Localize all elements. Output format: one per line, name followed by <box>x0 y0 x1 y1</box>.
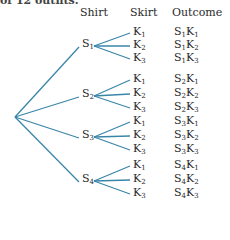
skirt-node-4-2: K2 <box>133 173 146 185</box>
skirt-node-4-3: K3 <box>133 187 146 199</box>
outcome-1-3: S1K3 <box>174 52 199 64</box>
branch-shirt-3-to-skirt-2 <box>94 136 130 137</box>
skirt-node-3-3: K3 <box>133 143 146 155</box>
skirt-node-4-1: K1 <box>133 159 146 171</box>
shirt-node-1: S1 <box>82 38 94 50</box>
skirt-node-2-1: K1 <box>133 73 146 85</box>
outcome-4-1: S4K1 <box>174 159 199 171</box>
outcome-4-3: S4K3 <box>174 187 199 199</box>
branch-shirt-3-to-skirt-3 <box>94 137 130 150</box>
outcome-3-3: S3K3 <box>174 143 199 155</box>
branch-shirt-3-to-skirt-1 <box>94 122 130 137</box>
outcome-2-2: S2K2 <box>174 87 199 99</box>
branch-shirt-4-to-skirt-3 <box>94 181 130 194</box>
skirt-node-1-2: K2 <box>133 39 146 51</box>
branch-shirt-1-to-skirt-3 <box>94 46 130 59</box>
branch-shirt-2-to-skirt-3 <box>94 96 130 108</box>
skirt-node-2-3: K3 <box>133 101 146 113</box>
shirt-node-4: S4 <box>82 173 94 185</box>
skirt-node-1-1: K1 <box>133 26 146 38</box>
outcome-3-1: S3K1 <box>174 115 199 127</box>
shirt-node-3: S3 <box>82 129 94 141</box>
outcome-1-1: S1K1 <box>174 26 199 38</box>
outcome-3-2: S3K2 <box>174 129 199 141</box>
shirt-node-2: S2 <box>82 88 94 100</box>
branch-shirt-4-to-skirt-1 <box>94 166 130 181</box>
branch-shirt-1-to-skirt-1 <box>94 33 130 46</box>
branch-shirt-2-to-skirt-1 <box>94 80 130 96</box>
skirt-node-3-1: K1 <box>133 115 146 127</box>
skirt-node-1-3: K3 <box>133 52 146 64</box>
skirt-node-3-2: K2 <box>133 129 146 141</box>
outcome-2-1: S2K1 <box>174 73 199 85</box>
branch-root-to-shirt-4 <box>15 117 79 182</box>
branch-shirt-4-to-skirt-2 <box>94 180 130 181</box>
outcome-2-3: S2K3 <box>174 101 199 113</box>
outcome-4-2: S4K2 <box>174 173 199 185</box>
skirt-node-2-2: K2 <box>133 87 146 99</box>
outcome-1-2: S1K2 <box>174 39 199 51</box>
